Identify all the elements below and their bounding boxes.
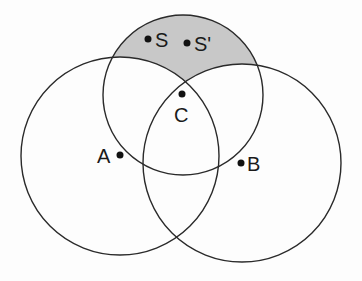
point-s-label: S: [155, 29, 168, 51]
point-b-dot: [238, 160, 245, 167]
point-s-prime-dot: [184, 40, 191, 47]
point-s-dot: [145, 36, 152, 43]
venn-svg: S S' C A B: [0, 0, 362, 281]
point-b-label: B: [247, 153, 260, 175]
venn-diagram: S S' C A B: [0, 0, 362, 281]
point-s-prime-label: S': [194, 33, 211, 55]
point-c-label: C: [174, 104, 188, 126]
point-c-dot: [179, 91, 186, 98]
point-a-label: A: [97, 145, 111, 167]
point-a-dot: [117, 152, 124, 159]
